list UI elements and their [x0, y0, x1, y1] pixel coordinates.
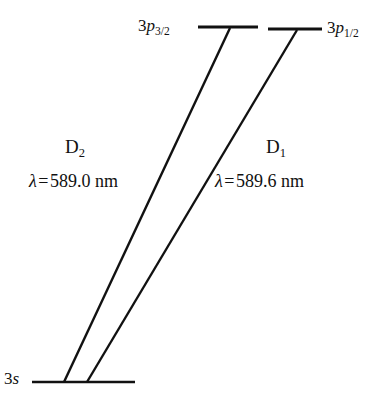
transition-d1-subscript: 1	[280, 146, 286, 160]
state-3s-orbital: s	[13, 369, 20, 388]
wavelength-value-d1: 589.6	[236, 171, 277, 191]
equals-d2: =	[38, 171, 48, 191]
transition-d2-subscript: 2	[79, 146, 85, 160]
lambda-symbol-d2: λ	[29, 171, 37, 191]
state-label-3p32: 3p3/2	[138, 17, 170, 37]
energy-level-diagram: 3p3/2 3p1/2 3s D2 λ = 589.0 nm D1 λ = 58…	[0, 0, 389, 413]
wavelength-unit-d1: nm	[281, 171, 304, 191]
level-diagram-canvas	[0, 0, 389, 413]
wavelength-label-d2: λ = 589.0 nm	[29, 172, 118, 190]
state-label-3p12: 3p1/2	[327, 19, 359, 39]
transition-d1-name: D	[266, 136, 280, 157]
state-3p12-orbital: p	[336, 18, 345, 37]
state-3p32-orbital: p	[147, 16, 156, 35]
transition-label-d1: D1	[266, 137, 286, 159]
transition-line-d1	[87, 30, 297, 382]
lambda-symbol-d1: λ	[215, 171, 223, 191]
state-3p32-subscript: 3/2	[155, 25, 170, 37]
wavelength-unit-d2: nm	[95, 171, 118, 191]
transition-label-d2: D2	[65, 137, 85, 159]
equals-d1: =	[224, 171, 234, 191]
state-label-3s: 3s	[4, 370, 19, 387]
state-3p12-n: 3	[327, 18, 336, 37]
state-3p12-subscript: 1/2	[344, 27, 359, 39]
wavelength-label-d1: λ = 589.6 nm	[215, 172, 304, 190]
transition-d2-name: D	[65, 136, 79, 157]
state-3s-n: 3	[4, 369, 13, 388]
wavelength-value-d2: 589.0	[50, 171, 91, 191]
state-3p32-n: 3	[138, 16, 147, 35]
transition-line-d2	[64, 28, 230, 382]
